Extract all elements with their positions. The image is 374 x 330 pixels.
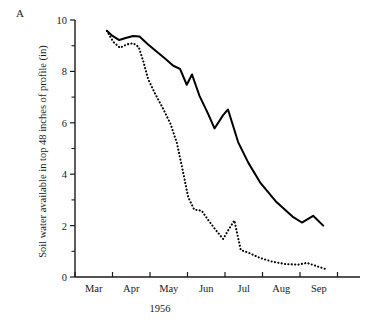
y-tick-label: 4: [39, 169, 67, 180]
figure-panel-a: A Soil water available in top 48 inches …: [0, 0, 374, 330]
x-tick-label: May: [159, 283, 178, 294]
y-tick-label: 6: [39, 117, 67, 128]
x-tick-label: Sep: [311, 283, 327, 294]
series-line-dotted: [107, 31, 326, 270]
axes: [75, 20, 360, 277]
x-tick-label: Jun: [199, 283, 214, 294]
axis-ticks: [70, 20, 338, 277]
x-tick-label: Apr: [123, 283, 139, 294]
series-line-solid: [107, 31, 323, 226]
panel-label: A: [16, 7, 24, 19]
y-tick-label: 0: [39, 272, 67, 283]
x-tick-label: Mar: [85, 283, 103, 294]
data-series: [107, 31, 326, 270]
x-tick-label: Jul: [238, 283, 250, 294]
x-tick-label: Aug: [272, 283, 290, 294]
y-tick-label: 10: [39, 15, 67, 26]
x-axis-title: 1956: [75, 303, 245, 314]
y-axis-title: Soil water available in top 48 inches of…: [37, 27, 48, 277]
y-tick-label: 2: [39, 220, 67, 231]
y-tick-label: 8: [39, 66, 67, 77]
